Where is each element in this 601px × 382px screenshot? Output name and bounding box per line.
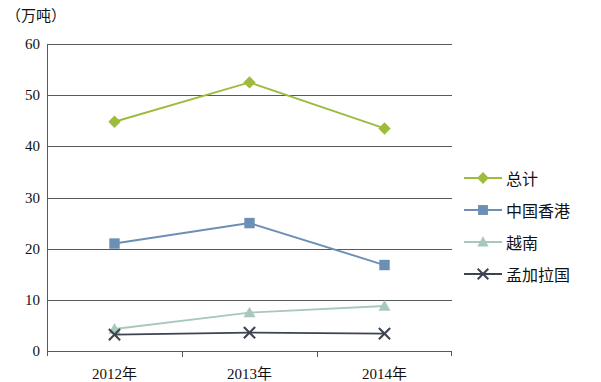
x-axis-line: 0 [47,351,452,352]
y-tick-label: 30 [25,190,40,205]
legend-item-2[interactable]: 中国香港 [463,194,601,226]
line-chart: （万吨） 6050403020100 2012年2013年2014年 总计中国香… [0,0,601,382]
x-tick-label: 2012年 [92,362,137,382]
series-2 [109,218,389,270]
series-line [115,223,385,265]
y-tick-label: 40 [25,139,40,154]
legend-item-1[interactable]: 总计 [463,162,601,194]
x-axis-tick [451,351,452,356]
data-point-marker [108,116,120,128]
data-point-marker [379,260,389,270]
legend-marker-diamond-icon [463,168,503,188]
x-tick-label: 2013年 [227,362,272,382]
data-point-marker [109,238,119,248]
y-axis-unit-label: （万吨） [6,4,66,25]
x-tick-label: 2014年 [362,362,407,382]
data-point-marker [243,76,255,88]
series-layer [47,44,452,351]
legend-marker-triangle-icon [463,232,503,252]
legend-label: 孟加拉国 [506,262,570,286]
x-axis-tick [47,351,48,356]
x-axis-tick [182,351,183,357]
y-tick-label: 0 [33,344,41,359]
legend-marker-square-icon [463,200,503,220]
legend-label: 总计 [506,166,538,190]
y-tick-label: 50 [25,88,40,103]
y-tick-label: 60 [25,37,40,52]
series-3 [109,300,391,334]
series-1 [108,76,390,134]
legend-marker-cross-icon [463,264,503,284]
data-point-marker [244,218,254,228]
legend-label: 中国香港 [506,198,570,222]
chart-legend: 总计中国香港越南孟加拉国 [463,162,601,290]
y-tick-label: 10 [25,292,40,307]
series-4 [109,327,390,340]
legend-label: 越南 [506,230,538,254]
series-line [115,82,385,128]
legend-item-4[interactable]: 孟加拉国 [463,258,601,290]
legend-item-3[interactable]: 越南 [463,226,601,258]
plot-area: 6050403020100 2012年2013年2014年 [47,44,452,351]
y-tick-label: 20 [25,241,40,256]
data-point-marker [378,122,390,134]
x-axis-tick [317,351,318,357]
